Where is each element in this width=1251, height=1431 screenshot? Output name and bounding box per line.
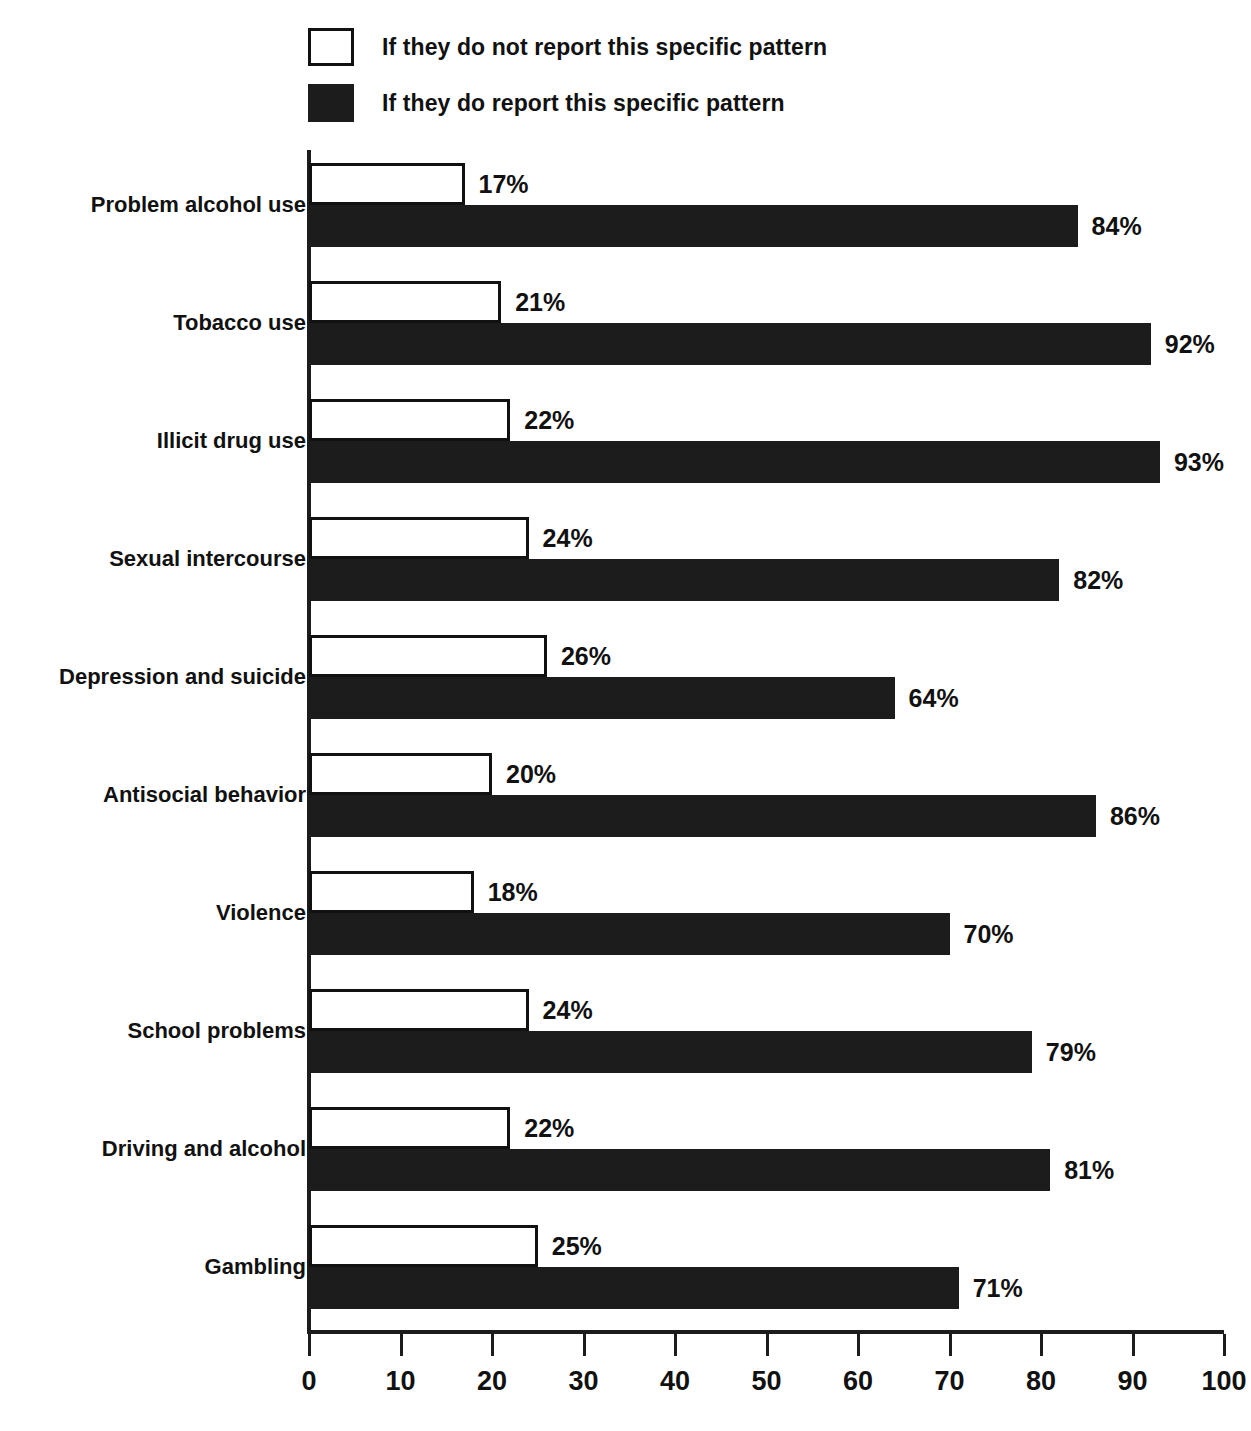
x-tick xyxy=(491,1334,494,1356)
bar-group: Illicit drug use22%93% xyxy=(0,399,1251,483)
bar-row: 18% xyxy=(309,871,1224,913)
category-label: Problem alcohol use xyxy=(6,192,306,218)
bar-not-report[interactable] xyxy=(309,517,529,559)
bar-not-report[interactable] xyxy=(309,1107,510,1149)
bar-row: 82% xyxy=(309,559,1224,601)
bar-not-report[interactable] xyxy=(309,871,474,913)
bar-row: 81% xyxy=(309,1149,1224,1191)
bar-report[interactable] xyxy=(309,559,1059,601)
bar-group: Tobacco use21%92% xyxy=(0,281,1251,365)
x-tick-label: 20 xyxy=(477,1366,507,1397)
bar-group: Gambling25%71% xyxy=(0,1225,1251,1309)
bar-value-label: 18% xyxy=(488,878,538,907)
bar-report[interactable] xyxy=(309,1149,1050,1191)
bar-group: Sexual intercourse24%82% xyxy=(0,517,1251,601)
bar-value-label: 70% xyxy=(964,920,1014,949)
bar-row: 17% xyxy=(309,163,1224,205)
bar-value-label: 22% xyxy=(524,406,574,435)
x-tick xyxy=(1132,1334,1135,1356)
bar-value-label: 93% xyxy=(1174,448,1224,477)
bar-not-report[interactable] xyxy=(309,1225,538,1267)
bar-not-report[interactable] xyxy=(309,989,529,1031)
bar-group: Depression and suicide26%64% xyxy=(0,635,1251,719)
x-tick xyxy=(674,1334,677,1356)
x-tick-label: 90 xyxy=(1117,1366,1147,1397)
bar-row: 22% xyxy=(309,399,1224,441)
bar-row: 92% xyxy=(309,323,1224,365)
bar-value-label: 82% xyxy=(1073,566,1123,595)
bar-value-label: 24% xyxy=(543,996,593,1025)
bar-row: 70% xyxy=(309,913,1224,955)
bar-group: Violence18%70% xyxy=(0,871,1251,955)
x-tick xyxy=(766,1334,769,1356)
bar-group: School problems24%79% xyxy=(0,989,1251,1073)
x-tick xyxy=(857,1334,860,1356)
bar-value-label: 25% xyxy=(552,1232,602,1261)
bar-group: Problem alcohol use17%84% xyxy=(0,163,1251,247)
bar-group: Antisocial behavior20%86% xyxy=(0,753,1251,837)
bar-report[interactable] xyxy=(309,913,950,955)
bar-row: 22% xyxy=(309,1107,1224,1149)
bar-report[interactable] xyxy=(309,441,1160,483)
x-tick xyxy=(1040,1334,1043,1356)
bar-value-label: 22% xyxy=(524,1114,574,1143)
bar-row: 93% xyxy=(309,441,1224,483)
x-tick-label: 40 xyxy=(660,1366,690,1397)
x-tick xyxy=(949,1334,952,1356)
bar-row: 21% xyxy=(309,281,1224,323)
bar-row: 79% xyxy=(309,1031,1224,1073)
bar-row: 24% xyxy=(309,517,1224,559)
bar-not-report[interactable] xyxy=(309,753,492,795)
category-label: Sexual intercourse xyxy=(6,546,306,572)
bar-row: 26% xyxy=(309,635,1224,677)
category-label: School problems xyxy=(6,1018,306,1044)
bar-report[interactable] xyxy=(309,323,1151,365)
x-tick-label: 0 xyxy=(301,1366,316,1397)
bar-value-label: 92% xyxy=(1165,330,1215,359)
bar-row: 71% xyxy=(309,1267,1224,1309)
x-tick xyxy=(583,1334,586,1356)
bar-value-label: 17% xyxy=(479,170,529,199)
bar-row: 24% xyxy=(309,989,1224,1031)
x-tick-label: 60 xyxy=(843,1366,873,1397)
category-label: Illicit drug use xyxy=(6,428,306,454)
bar-row: 25% xyxy=(309,1225,1224,1267)
x-tick-label: 100 xyxy=(1201,1366,1246,1397)
bar-row: 20% xyxy=(309,753,1224,795)
bar-row: 86% xyxy=(309,795,1224,837)
category-label: Violence xyxy=(6,900,306,926)
category-label: Gambling xyxy=(6,1254,306,1280)
bar-not-report[interactable] xyxy=(309,399,510,441)
bar-value-label: 21% xyxy=(515,288,565,317)
bar-group: Driving and alcohol22%81% xyxy=(0,1107,1251,1191)
category-label: Tobacco use xyxy=(6,310,306,336)
bar-not-report[interactable] xyxy=(309,635,547,677)
bar-report[interactable] xyxy=(309,677,895,719)
bar-report[interactable] xyxy=(309,205,1078,247)
x-tick-label: 30 xyxy=(568,1366,598,1397)
bar-value-label: 79% xyxy=(1046,1038,1096,1067)
x-tick-label: 70 xyxy=(934,1366,964,1397)
bar-value-label: 71% xyxy=(973,1274,1023,1303)
x-tick xyxy=(308,1334,311,1356)
bar-report[interactable] xyxy=(309,1267,959,1309)
bar-value-label: 24% xyxy=(543,524,593,553)
bar-value-label: 81% xyxy=(1064,1156,1114,1185)
category-label: Antisocial behavior xyxy=(6,782,306,808)
bar-not-report[interactable] xyxy=(309,163,465,205)
bar-report[interactable] xyxy=(309,1031,1032,1073)
x-tick-label: 50 xyxy=(751,1366,781,1397)
bar-value-label: 26% xyxy=(561,642,611,671)
bar-not-report[interactable] xyxy=(309,281,501,323)
bar-row: 84% xyxy=(309,205,1224,247)
x-tick-label: 10 xyxy=(385,1366,415,1397)
bar-value-label: 64% xyxy=(909,684,959,713)
bar-value-label: 20% xyxy=(506,760,556,789)
bar-value-label: 86% xyxy=(1110,802,1160,831)
bar-row: 64% xyxy=(309,677,1224,719)
bar-report[interactable] xyxy=(309,795,1096,837)
x-tick xyxy=(1223,1334,1226,1356)
category-label: Driving and alcohol xyxy=(6,1136,306,1162)
category-label: Depression and suicide xyxy=(6,664,306,690)
bar-value-label: 84% xyxy=(1092,212,1142,241)
